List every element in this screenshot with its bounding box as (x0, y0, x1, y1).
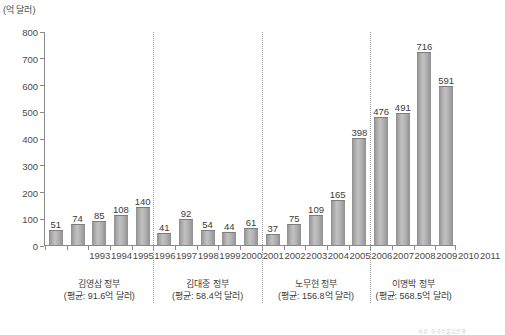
bar-value-label: 41 (147, 222, 181, 233)
bar-value-label: 398 (342, 127, 376, 138)
x-axis-tick (327, 246, 328, 250)
bar-value-label: 491 (386, 102, 420, 113)
bar-value-label: 591 (429, 75, 463, 86)
group-average-label: (평균: 568.5억 달러) (376, 290, 452, 302)
group-average-label: (평균: 58.4억 달러) (172, 290, 243, 302)
group-caption: 김대중 정부(평균: 58.4억 달러) (172, 278, 243, 302)
group-name: 김영삼 정부 (64, 278, 135, 290)
y-axis-tick (40, 32, 44, 33)
bar-value-label: 140 (126, 196, 160, 207)
x-axis-tick (45, 246, 46, 250)
bar (222, 232, 236, 245)
bar (157, 233, 171, 245)
y-axis-tick (40, 246, 44, 247)
x-axis-tick (197, 246, 198, 250)
x-axis-tick (218, 246, 219, 250)
y-axis-unit-label: (억 달러) (3, 3, 36, 16)
y-axis-tick (40, 112, 44, 113)
group-caption: 이명박 정부(평균: 568.5억 달러) (376, 278, 452, 302)
x-axis-tick (175, 246, 176, 250)
y-axis-tick-label: 700 (8, 53, 38, 64)
x-axis-tick (305, 246, 306, 250)
y-axis-tick-label: 600 (8, 80, 38, 91)
bar (439, 86, 453, 245)
group-caption: 김영삼 정부(평균: 91.6억 달러) (64, 278, 135, 302)
group-separator (153, 32, 154, 303)
y-axis-tick-label: 800 (8, 27, 38, 38)
group-average-label: (평균: 156.8억 달러) (278, 290, 354, 302)
group-name: 김대중 정부 (172, 278, 243, 290)
bar-value-label: 37 (256, 223, 290, 234)
x-axis-tick (240, 246, 241, 250)
bar (92, 221, 106, 245)
y-axis-line (44, 32, 45, 246)
x-axis-tick (67, 246, 68, 250)
x-axis-tick (132, 246, 133, 250)
x-axis-tick (455, 246, 456, 250)
y-axis-tick-label: 500 (8, 107, 38, 118)
y-axis-tick (40, 58, 44, 59)
y-axis-tick (40, 165, 44, 166)
x-axis-tick (110, 246, 111, 250)
y-axis-tick-label: 200 (8, 187, 38, 198)
bar-value-label: 716 (407, 41, 441, 52)
x-axis-tick (414, 246, 415, 250)
group-separator (370, 32, 371, 303)
group-name: 노무현 정부 (278, 278, 354, 290)
x-axis-tick (392, 246, 393, 250)
y-axis-tick-label: 400 (8, 134, 38, 145)
y-axis-tick-label: 100 (8, 214, 38, 225)
bar-value-label: 165 (321, 189, 355, 200)
source-note: 자료: 한국수출입은행 (418, 327, 466, 334)
bar-value-label: 109 (299, 204, 333, 215)
group-average-label: (평균: 91.6억 달러) (64, 290, 135, 302)
x-axis-tick-label: 2011 (473, 250, 505, 261)
group-separator (262, 32, 263, 303)
y-axis-tick (40, 192, 44, 193)
x-axis-tick (435, 246, 436, 250)
x-axis-tick (284, 246, 285, 250)
y-axis-tick (40, 139, 44, 140)
y-axis-tick-label: 300 (8, 160, 38, 171)
group-name: 이명박 정부 (376, 278, 452, 290)
bar (396, 113, 410, 245)
x-axis-line (44, 245, 456, 246)
bar (266, 234, 280, 245)
bar (49, 230, 63, 245)
group-caption: 노무현 정부(평균: 156.8억 달러) (278, 278, 354, 302)
x-axis-tick (88, 246, 89, 250)
x-axis-tick (349, 246, 350, 250)
y-axis-tick (40, 85, 44, 86)
y-axis-tick-label: 0 (8, 241, 38, 252)
